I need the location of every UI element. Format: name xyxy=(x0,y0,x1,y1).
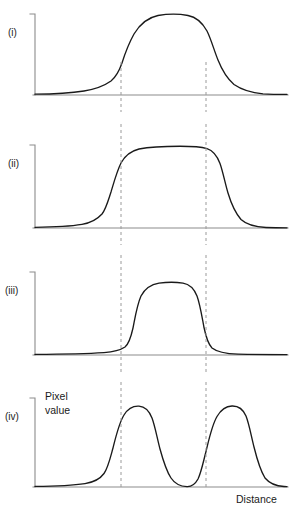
panel-iv-curve xyxy=(35,406,287,487)
figure-container: (i) (ii) (iii) (iv) xyxy=(0,0,301,510)
y-axis-label-line2: value xyxy=(45,404,70,416)
panel-label-iii: (iii) xyxy=(5,285,18,296)
edge-position-guides xyxy=(121,62,206,487)
panel-i-y-axis xyxy=(30,14,35,95)
panel-label-ii: (ii) xyxy=(8,158,19,169)
panel-i-curve xyxy=(35,14,287,94)
panel-ii: (ii) xyxy=(8,145,288,228)
panel-iv-y-axis xyxy=(30,398,35,487)
panel-ii-curve xyxy=(35,146,287,228)
panel-iii: (iii) xyxy=(5,272,288,355)
panel-label-i: (i) xyxy=(8,27,17,38)
x-axis-label: Distance xyxy=(236,493,277,505)
panel-ii-y-axis xyxy=(30,145,35,228)
panel-iii-curve xyxy=(35,282,287,354)
y-axis-label-line1: Pixel xyxy=(45,390,68,402)
profile-plots-figure: (i) (ii) (iii) (iv) xyxy=(0,0,301,510)
panel-label-iv: (iv) xyxy=(5,411,19,422)
panel-i: (i) xyxy=(8,14,288,95)
panel-iii-y-axis xyxy=(30,272,35,355)
